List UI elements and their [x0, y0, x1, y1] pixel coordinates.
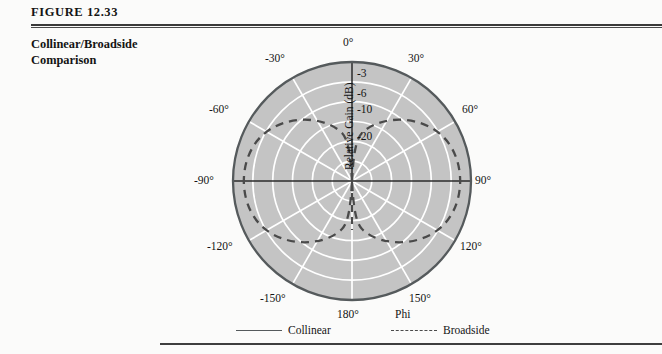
angular-tick-180: 180° — [337, 308, 359, 320]
angular-axis-label: Phi — [395, 308, 410, 320]
angular-tick-30: 30° — [408, 52, 424, 64]
radial-tick-minus20: -20 — [357, 130, 372, 142]
radial-tick-minus10: -10 — [357, 103, 372, 115]
angular-tick-0: 0° — [343, 36, 353, 48]
chart-legend: Collinear Broadside — [236, 324, 536, 340]
radial-tick-minus3: -3 — [357, 67, 367, 79]
legend-entry-collinear: Collinear — [236, 324, 331, 336]
legend-label-broadside: Broadside — [443, 324, 490, 336]
polar-plot: 0° 30° 60° 90° 120° 150° 180° -150° -120… — [190, 30, 530, 320]
angular-tick-neg90: -90° — [194, 174, 214, 186]
figure-caption-line-2: Comparison — [31, 53, 211, 69]
radial-axis-title: Relative Gain (dB) — [343, 82, 355, 170]
radial-tick-minus6: -6 — [357, 87, 367, 99]
legend-line-dashed-icon — [391, 329, 437, 332]
header-rule-top — [31, 24, 662, 26]
angular-tick-neg120: -120° — [207, 240, 233, 252]
legend-label-collinear: Collinear — [288, 324, 331, 336]
header-double-rule — [31, 24, 662, 28]
footer-rule — [160, 343, 662, 345]
angular-tick-60: 60° — [462, 103, 478, 115]
figure-number-label: FIGURE 12.33 — [31, 5, 118, 20]
angular-tick-neg150: -150° — [260, 292, 286, 304]
legend-entry-broadside: Broadside — [391, 324, 490, 336]
angular-tick-neg30: -30° — [265, 52, 285, 64]
figure-caption: Collinear/Broadside Comparison — [31, 37, 211, 68]
header-rule-bottom — [31, 27, 662, 28]
angular-tick-150: 150° — [409, 292, 431, 304]
angular-tick-neg60: -60° — [209, 103, 229, 115]
figure-caption-line-1: Collinear/Broadside — [31, 37, 211, 53]
angular-tick-90: 90° — [475, 174, 491, 186]
legend-line-solid-icon — [236, 329, 282, 332]
angular-tick-120: 120° — [460, 240, 482, 252]
